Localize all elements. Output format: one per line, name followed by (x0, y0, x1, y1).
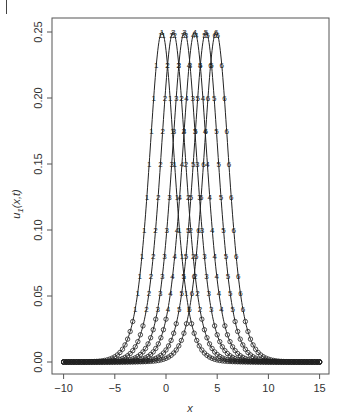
series-marker-5: 5 (189, 193, 194, 202)
series-marker-4: 4 (170, 272, 175, 281)
series-marker-3: 3 (206, 289, 211, 298)
series-marker-5: 5 (191, 160, 196, 169)
series-marker-6: 6 (190, 289, 195, 298)
series-marker-5: 5 (224, 252, 229, 261)
y-tick-label: 0.10 (32, 219, 44, 240)
series-marker-6: 6 (196, 226, 201, 235)
series-peak-marker-1: 1 (160, 28, 165, 37)
series-marker-1: 1 (135, 289, 140, 298)
series-marker-6: 6 (227, 160, 232, 169)
series-marker-3: 3 (202, 252, 207, 261)
series-marker-5: 5 (186, 226, 191, 235)
y-axis-label-args: (x,t) (10, 189, 22, 208)
series-marker-4: 4 (182, 127, 187, 136)
series-marker-6: 6 (241, 305, 246, 314)
series-marker-1: 1 (149, 127, 154, 136)
series-marker-4: 4 (217, 289, 222, 298)
x-tick-label: −5 (109, 382, 122, 394)
series-marker-2: 2 (160, 127, 165, 136)
series-marker-6: 6 (187, 305, 192, 314)
series-peak-marker-3: 3 (182, 28, 187, 37)
series-marker-6: 6 (203, 127, 208, 136)
series-marker-1: 1 (145, 193, 150, 202)
series-marker-4: 4 (184, 94, 189, 103)
series-marker-3: 3 (169, 160, 174, 169)
series-marker-1: 1 (133, 305, 138, 314)
y-tick-label: 0.15 (32, 153, 44, 174)
series-marker-2: 2 (163, 94, 168, 103)
series-marker-4: 4 (166, 305, 171, 314)
series-marker-3: 3 (177, 61, 182, 70)
series-marker-3: 3 (172, 127, 177, 136)
series-marker-5: 5 (228, 289, 233, 298)
series-marker-4: 4 (175, 226, 180, 235)
series-marker-1: 1 (138, 272, 143, 281)
series-marker-2: 2 (156, 193, 161, 202)
series-marker-6: 6 (229, 193, 234, 202)
series-marker-5: 5 (214, 127, 219, 136)
series-marker-6: 6 (224, 127, 229, 136)
series-marker-1: 1 (151, 94, 156, 103)
series-marker-3: 3 (158, 289, 163, 298)
series-marker-4: 4 (177, 193, 182, 202)
series-marker-5: 5 (212, 94, 217, 103)
series-marker-6: 6 (234, 252, 239, 261)
series-marker-3: 3 (160, 272, 165, 281)
series-marker-5: 5 (193, 127, 198, 136)
series-marker-4: 4 (168, 289, 173, 298)
series-marker-4: 4 (219, 305, 224, 314)
series-peak-marker-4: 4 (192, 28, 197, 37)
y-tick-label: 0.00 (32, 351, 44, 372)
svg-text:u1(x,t): u1(x,t) (10, 189, 25, 219)
x-axis-label: x (186, 402, 193, 414)
series-marker-5: 5 (219, 193, 224, 202)
series-marker-4: 4 (180, 160, 185, 169)
series-marker-2: 2 (149, 272, 154, 281)
series-marker-3: 3 (167, 193, 172, 202)
series-marker-2: 2 (151, 252, 156, 261)
series-marker-1: 1 (142, 226, 147, 235)
y-tick-label: 0.25 (32, 21, 44, 42)
series-marker-1: 1 (168, 94, 173, 103)
series-marker-2: 2 (153, 226, 158, 235)
series-peak-marker-5: 5 (204, 28, 209, 37)
series-marker-6: 6 (232, 226, 237, 235)
series-peak-marker-6: 6 (214, 28, 219, 37)
series-marker-6: 6 (206, 94, 211, 103)
series-marker-2: 2 (165, 61, 170, 70)
soliton-line-chart: 0.000.050.100.150.200.25 −10−5051015 111… (0, 0, 347, 418)
series-marker-2: 2 (144, 305, 149, 314)
series-marker-4: 4 (187, 61, 192, 70)
y-axis: 0.000.050.100.150.200.25 (32, 21, 52, 372)
series-marker-3: 3 (209, 305, 214, 314)
series-marker-6: 6 (208, 61, 213, 70)
series-marker-1: 1 (154, 61, 159, 70)
series-marker-2: 2 (198, 305, 203, 314)
series-marker-5: 5 (184, 252, 189, 261)
series-marker-5: 5 (226, 272, 231, 281)
x-tick-label: 10 (262, 382, 274, 394)
series-marker-2: 2 (158, 160, 163, 169)
x-axis: −10−5051015 (54, 374, 325, 394)
series-marker-6: 6 (236, 272, 241, 281)
series-marker-6: 6 (220, 61, 225, 70)
series-marker-6: 6 (199, 193, 204, 202)
series-marker-2: 2 (184, 160, 189, 169)
series-marker-2: 2 (195, 289, 200, 298)
series-marker-3: 3 (195, 160, 200, 169)
series-marker-6: 6 (222, 94, 227, 103)
series-marker-4: 4 (172, 252, 177, 261)
series-marker-4: 4 (212, 252, 217, 261)
y-axis-label: u1(x,t) (10, 189, 25, 219)
series-marker-3: 3 (204, 272, 209, 281)
x-tick-label: 15 (313, 382, 325, 394)
series-marker-4: 4 (207, 193, 212, 202)
series-marker-1: 1 (184, 289, 189, 298)
series-marker-3: 3 (174, 94, 179, 103)
series-marker-5: 5 (230, 305, 235, 314)
series-marker-6: 6 (201, 160, 206, 169)
series-marker-5: 5 (221, 226, 226, 235)
series-marker-6: 6 (238, 289, 243, 298)
x-tick-label: 5 (214, 382, 220, 394)
series-marker-5: 5 (182, 272, 187, 281)
